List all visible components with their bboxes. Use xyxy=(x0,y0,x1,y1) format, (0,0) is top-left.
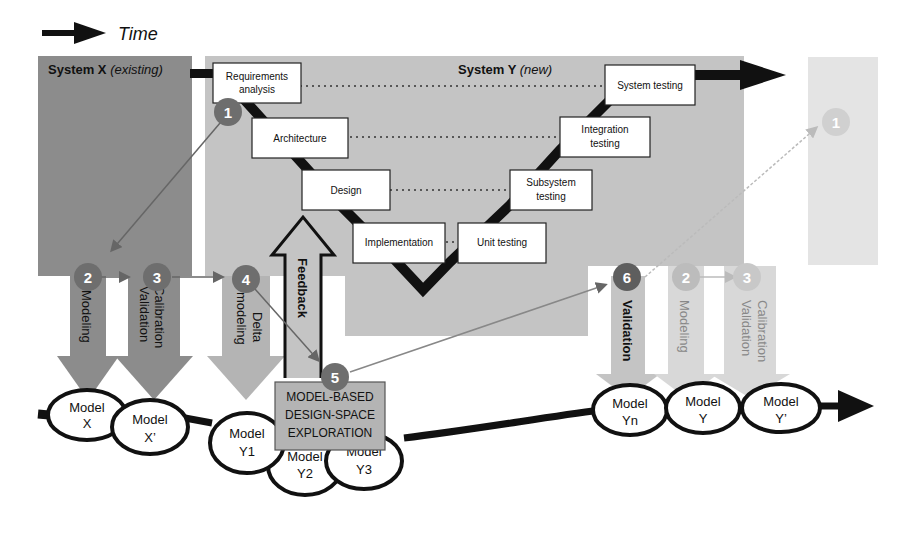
delta-modeling-label: modeling xyxy=(234,292,249,345)
step-badge-3: 3 xyxy=(143,263,171,291)
step-badge-1-future: 1 xyxy=(822,108,850,136)
box-label: Architecture xyxy=(273,133,327,144)
model-y1: Model Y1 xyxy=(210,413,284,473)
time-arrow-shaft xyxy=(42,30,76,36)
step-number: 3 xyxy=(743,269,751,286)
box-label: Design xyxy=(330,185,361,196)
step-badge-2-future: 2 xyxy=(672,263,700,291)
model-label: Model xyxy=(685,394,721,409)
mbdse-label: DESIGN-SPACE xyxy=(285,408,375,422)
future-system-region xyxy=(808,57,878,265)
time-label: Time xyxy=(118,24,158,44)
step-badge-1: 1 xyxy=(214,98,242,126)
system-x-title: System X (existing) xyxy=(48,62,163,77)
model-label: Model xyxy=(287,449,323,464)
model-label: Model xyxy=(229,426,265,441)
step-number: 3 xyxy=(153,269,161,286)
calibration-label: Calibration xyxy=(152,286,167,348)
model-label: Y xyxy=(699,411,708,426)
box-label: Unit testing xyxy=(477,237,527,248)
mbdse-box: MODEL-BASED DESIGN-SPACE EXPLORATION xyxy=(275,382,385,450)
model-x-prime: Model X’ xyxy=(112,400,188,454)
model-y: Model Y xyxy=(666,383,740,433)
step-number: 5 xyxy=(331,369,339,386)
model-timeline-arrowhead xyxy=(838,390,874,422)
model-label: Model xyxy=(763,394,799,409)
model-label: Y1 xyxy=(239,444,255,459)
box-label: testing xyxy=(590,138,619,149)
step-badge-6: 6 xyxy=(613,263,641,291)
model-label: Model xyxy=(612,396,648,411)
box-design: Design xyxy=(302,170,390,210)
modeling-label: Modeling xyxy=(79,290,94,343)
validation-label: Validation xyxy=(137,286,152,342)
right-arrow-icon xyxy=(74,22,106,44)
box-label: Implementation xyxy=(365,237,433,248)
step-number: 1 xyxy=(224,104,232,121)
mbdse-label: MODEL-BASED xyxy=(286,390,374,404)
calibration-future-label: Calibration xyxy=(755,300,770,362)
validation-y-label: Validation xyxy=(620,300,635,361)
box-integration-testing: Integration testing xyxy=(560,117,650,157)
model-label: Y’ xyxy=(775,411,787,426)
step-badge-4: 4 xyxy=(232,265,260,293)
box-label: Integration xyxy=(581,124,628,135)
model-label: X xyxy=(83,416,92,431)
validation-future-label: Validation xyxy=(739,300,754,356)
model-label: X’ xyxy=(144,430,156,445)
modeling-arrow: Modeling xyxy=(57,276,119,400)
calibration-validation-arrow: Calibration Validation xyxy=(115,276,193,400)
box-label: analysis xyxy=(239,84,275,95)
step-badge-5: 5 xyxy=(321,363,349,391)
model-label: Y2 xyxy=(297,466,313,481)
time-legend: Time xyxy=(42,22,158,44)
box-label: Subsystem xyxy=(526,177,575,188)
validation-y-arrow: Validation xyxy=(596,276,660,398)
box-architecture: Architecture xyxy=(252,118,348,158)
system-y-region-left-lower xyxy=(205,200,345,276)
model-y-prime: Model Y’ xyxy=(742,384,820,432)
model-label: Model xyxy=(132,412,168,427)
box-label: System testing xyxy=(617,80,683,91)
v-model-exit-bar xyxy=(695,70,743,80)
model-label: Yn xyxy=(622,413,638,428)
model-label: Model xyxy=(69,400,105,415)
v-model-entry-bar xyxy=(190,69,216,78)
box-subsystem-testing: Subsystem testing xyxy=(510,170,592,210)
system-x-region xyxy=(38,56,192,276)
step-number: 6 xyxy=(623,269,631,286)
step-number: 4 xyxy=(242,271,251,288)
delta-modeling-arrow: Delta modeling xyxy=(207,276,285,400)
box-label: Requirements xyxy=(226,71,288,82)
model-timeline-segment xyxy=(404,410,600,438)
delta-label: Delta xyxy=(250,312,265,343)
step-badge-3-future: 3 xyxy=(733,263,761,291)
v-model-exit-arrowhead xyxy=(740,60,786,90)
model-yn: Model Yn xyxy=(593,385,667,435)
box-system-testing: System testing xyxy=(605,65,695,105)
diagram-canvas: Time System X (existing) System Y (new) … xyxy=(0,0,911,542)
system-y-title: System Y (new) xyxy=(458,62,552,77)
box-unit-testing: Unit testing xyxy=(458,223,546,263)
step-badge-2: 2 xyxy=(74,263,102,291)
box-implementation: Implementation xyxy=(353,223,445,263)
mbdse-label: EXPLORATION xyxy=(288,426,372,440)
box-requirements-analysis: Requirements analysis xyxy=(213,63,301,103)
box-label: testing xyxy=(536,191,565,202)
step-number: 2 xyxy=(682,269,690,286)
step-number: 1 xyxy=(832,114,840,131)
step-number: 2 xyxy=(84,269,92,286)
modeling-future-label: Modeling xyxy=(677,300,692,353)
model-label: Y3 xyxy=(356,462,372,477)
feedback-label: Feedback xyxy=(295,258,310,319)
